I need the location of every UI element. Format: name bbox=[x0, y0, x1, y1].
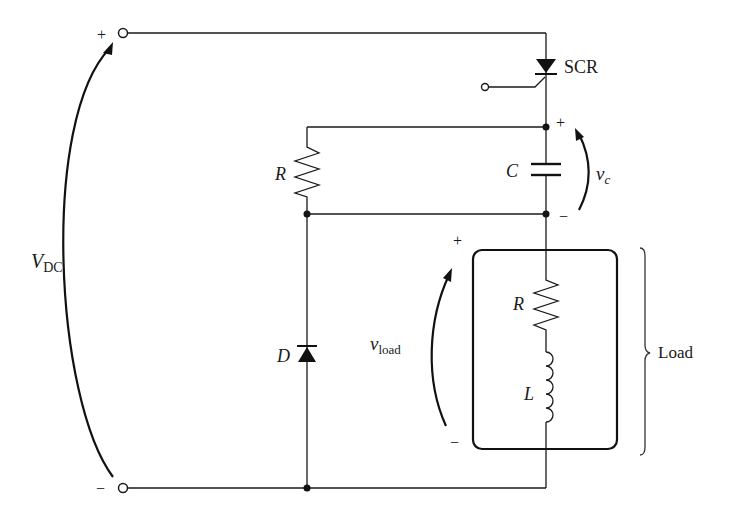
inductor-icon bbox=[546, 352, 553, 422]
negative-terminal bbox=[119, 484, 128, 493]
vc-arrow bbox=[579, 134, 589, 210]
vc-plus-sign: + bbox=[556, 114, 565, 131]
gate-terminal bbox=[482, 84, 489, 91]
load-brace bbox=[640, 248, 650, 455]
scr-icon bbox=[536, 59, 556, 73]
vc-arrowhead-icon bbox=[575, 128, 584, 141]
vdc-arrowhead-icon bbox=[103, 42, 113, 55]
vc-minus-sign: − bbox=[559, 208, 568, 225]
circuit-diagram: + − VDC SCR R C + − vc D + − vload R L L… bbox=[0, 0, 735, 520]
load-resistor-icon bbox=[534, 277, 558, 352]
gate-wire bbox=[489, 77, 545, 87]
capacitor-label: C bbox=[506, 161, 519, 181]
vdc-plus-sign: + bbox=[97, 26, 106, 43]
load-bracket-label: Load bbox=[658, 343, 693, 362]
scr-label: SCR bbox=[564, 57, 598, 77]
vdc-minus-sign: − bbox=[96, 480, 105, 497]
vload-arrowhead-icon bbox=[443, 268, 452, 282]
diode-label: D bbox=[276, 346, 290, 366]
vdc-label: VDC bbox=[31, 250, 63, 275]
vload-arrow bbox=[432, 275, 449, 426]
vload-plus-sign: + bbox=[453, 232, 462, 249]
diode-icon bbox=[298, 347, 316, 362]
load-box bbox=[473, 250, 617, 449]
snubber-resistor-icon bbox=[295, 127, 319, 214]
vc-label: vc bbox=[596, 163, 610, 187]
vload-label: vload bbox=[370, 333, 401, 357]
load-resistor-label: R bbox=[512, 294, 524, 314]
vload-minus-sign: − bbox=[450, 434, 459, 451]
snubber-resistor-label: R bbox=[274, 164, 286, 184]
vdc-arrow bbox=[63, 48, 113, 477]
positive-terminal bbox=[119, 29, 128, 38]
inductor-label: L bbox=[523, 384, 534, 404]
